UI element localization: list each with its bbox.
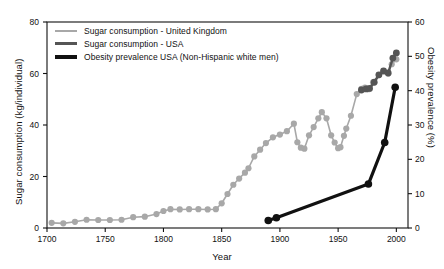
y-tick-right-30: 30 (415, 120, 441, 130)
y-tick-left-40: 40 (13, 120, 39, 130)
chart-legend: Sugar consumption - United KingdomSugar … (55, 24, 315, 63)
y-axis-label-left: Sugar consumption (kg/individual) (13, 59, 24, 205)
y-tick-left-0: 0 (13, 223, 39, 233)
y-tick-left-60: 60 (13, 69, 39, 79)
y-tick-right-60: 60 (415, 17, 441, 27)
legend-label: Sugar consumption - USA (84, 39, 183, 49)
x-tick-1950: 1950 (318, 234, 358, 244)
y-tick-left-80: 80 (13, 17, 39, 27)
x-tick-1800: 1800 (143, 234, 183, 244)
legend-item-1: Sugar consumption - USA (55, 37, 315, 50)
y-tick-right-20: 20 (415, 154, 441, 164)
y-tick-right-0: 0 (415, 223, 441, 233)
legend-swatch-icon (55, 55, 77, 59)
legend-swatch-icon (55, 30, 77, 32)
x-tick-1900: 1900 (260, 234, 300, 244)
x-tick-1700: 1700 (27, 234, 67, 244)
y-tick-left-20: 20 (13, 172, 39, 182)
legend-item-2: Obesity prevalence USA (Non-Hispanic whi… (55, 50, 315, 63)
legend-item-0: Sugar consumption - United Kingdom (55, 24, 315, 37)
y-tick-right-40: 40 (415, 86, 441, 96)
legend-label: Obesity prevalence USA (Non-Hispanic whi… (84, 52, 279, 62)
series-0 (49, 56, 400, 226)
y-axis-label-right: Obesity prevalence (%) (426, 47, 437, 148)
y-tick-right-10: 10 (415, 189, 441, 199)
x-tick-1850: 1850 (202, 234, 242, 244)
x-tick-1750: 1750 (85, 234, 125, 244)
series-2 (264, 83, 399, 224)
chart-figure: Sugar consumption (kg/individual) Obesit… (0, 0, 444, 269)
x-tick-2000: 2000 (376, 234, 416, 244)
y-tick-right-50: 50 (415, 51, 441, 61)
legend-swatch-icon (55, 42, 77, 45)
x-axis-label: Year (0, 251, 444, 262)
legend-label: Sugar consumption - United Kingdom (84, 26, 227, 36)
